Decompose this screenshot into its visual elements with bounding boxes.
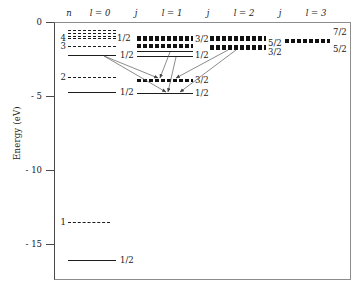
level-l0-2s	[68, 92, 116, 93]
level-l1-2p32	[137, 79, 193, 82]
level-band-l2-j52	[210, 36, 266, 41]
level-l0-n1	[68, 222, 110, 223]
level-band-l1-j12	[137, 44, 193, 48]
column-header-l3: l = 3	[296, 8, 336, 18]
level-l0-n2	[68, 77, 116, 78]
j-label-l0-top: 1/2	[117, 34, 131, 43]
level-l0-limit-c	[68, 36, 116, 37]
level-l1-3p-a	[137, 51, 193, 52]
j-label-l3-low: 5/2	[333, 45, 347, 54]
j-label-l0-2s: 1/2	[120, 88, 134, 97]
column-header-l1: l = 1	[152, 8, 192, 18]
level-l0-n3	[68, 46, 116, 47]
j-label-l3-top: 7/2	[333, 28, 347, 37]
level-l0-1s	[68, 260, 116, 261]
n-label-3: 3	[54, 42, 66, 51]
y-tick-label-0: 0	[8, 17, 42, 27]
level-band-l2-j32	[210, 45, 266, 50]
y-tick-label-minus-5: - 5	[8, 91, 42, 101]
level-l1-3p-b	[137, 56, 193, 57]
j-label-l0-3s: 1/2	[120, 51, 134, 60]
level-band-l3	[285, 39, 330, 43]
energy-level-diagram: Energy (eV) 0 - 5 - 10 - 15 n l = 0 j l …	[0, 0, 359, 294]
n-label-2: 2	[54, 73, 66, 82]
level-l1-2p12	[137, 93, 193, 94]
j-label-l1-2p32: 3/2	[195, 76, 209, 85]
j-label-l1-2p12: 1/2	[195, 89, 209, 98]
plot-frame	[54, 22, 351, 280]
y-tick-label-minus-15: - 15	[8, 239, 42, 249]
level-l0-limit-a	[68, 30, 116, 31]
column-header-j-a: j	[128, 8, 144, 18]
level-l0-n4	[68, 38, 116, 39]
level-l0-3s	[68, 55, 116, 56]
j-label-l0-1s: 1/2	[120, 256, 134, 265]
j-label-l1-half: 1/2	[195, 51, 209, 60]
column-header-j-b: j	[200, 8, 216, 18]
y-tick-label-minus-10: - 10	[8, 165, 42, 175]
column-header-l2: l = 2	[224, 8, 264, 18]
j-label-l1-top: 3/2	[195, 35, 209, 44]
n-label-1: 1	[54, 218, 66, 227]
column-header-l0: l = 0	[80, 8, 120, 18]
column-header-j-c: j	[272, 8, 288, 18]
j-label-l2-low: 3/2	[268, 48, 282, 57]
level-l0-limit-b	[68, 33, 116, 34]
level-band-l1-j32	[137, 36, 193, 41]
column-header-n: n	[60, 8, 78, 18]
